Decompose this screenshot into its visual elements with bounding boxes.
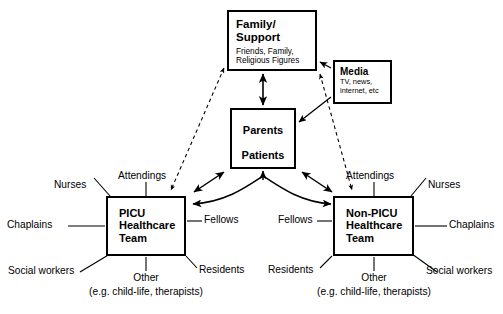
parents-label: Parents	[232, 124, 294, 136]
edge-media-family	[320, 62, 331, 68]
edge-family-picu-dashed	[171, 68, 224, 190]
nonpicu-team-title: Non-PICU Healthcare Team	[346, 207, 412, 244]
leader-nonpicu-nurses	[411, 178, 426, 196]
label-nonpicu-residents: Residents	[268, 264, 313, 275]
media-title: Media	[340, 66, 390, 77]
patients-label: Patients	[232, 149, 294, 161]
label-picu-chaplains: Chaplains	[7, 219, 52, 230]
edge-patients-nonpicu	[302, 172, 332, 192]
label-picu-fellows: Fellows	[204, 214, 239, 225]
leader-picu-nurses	[94, 178, 110, 196]
label-picu-residents: Residents	[199, 264, 244, 275]
node-picu-healthcare-team[interactable]: PICU Healthcare Team	[106, 196, 186, 256]
picu-team-title: PICU Healthcare Team	[119, 207, 184, 244]
edge-patients-picu	[194, 172, 224, 192]
edge-teams-curve	[193, 176, 263, 204]
diagram-canvas: PICU team (dashed) --> Non-PICU team (da…	[0, 0, 503, 314]
label-picu-attendings: Attendings	[118, 170, 166, 181]
family-support-subtitle: Friends, Family, Religious Figures	[236, 47, 315, 66]
label-picu-other: Other	[96, 272, 196, 283]
family-support-title: Family/ Support	[236, 18, 315, 44]
label-nonpicu-nurses: Nurses	[428, 179, 460, 190]
media-subtitle: TV, news, internet, etc	[340, 78, 390, 95]
label-nonpicu-attendings: Attendings	[346, 170, 394, 181]
label-nonpicu-fellows: Fellows	[278, 214, 313, 225]
node-family-support[interactable]: Family/ Support Friends, Family, Religio…	[227, 10, 317, 71]
label-picu-social-workers: Social workers	[8, 265, 74, 276]
label-nonpicu-other: Other	[324, 272, 424, 283]
edge-teams-curve-right	[263, 176, 331, 204]
node-nonpicu-healthcare-team[interactable]: Non-PICU Healthcare Team	[333, 196, 414, 256]
label-nonpicu-other-detail: (e.g. child-life, therapists)	[284, 286, 464, 297]
label-nonpicu-chaplains: Chaplains	[449, 219, 494, 230]
node-media[interactable]: Media TV, news, internet, etc	[333, 60, 392, 104]
leader-picu-socialworkers	[80, 254, 110, 272]
label-nonpicu-social-workers: Social workers	[426, 265, 492, 276]
leader-picu-residents	[186, 256, 197, 268]
node-parents-patients[interactable]: Parents Patients	[230, 108, 296, 169]
edge-media-parents	[299, 97, 331, 122]
label-picu-nurses: Nurses	[54, 179, 86, 190]
label-picu-other-detail: (e.g. child-life, therapists)	[56, 286, 236, 297]
leader-nonpicu-residents	[320, 256, 332, 268]
